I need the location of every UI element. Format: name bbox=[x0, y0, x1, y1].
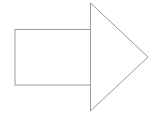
arrow-diagram bbox=[0, 0, 157, 113]
arrow-shaft-rectangle bbox=[15, 30, 91, 86]
arrow-head-triangle bbox=[91, 3, 149, 111]
